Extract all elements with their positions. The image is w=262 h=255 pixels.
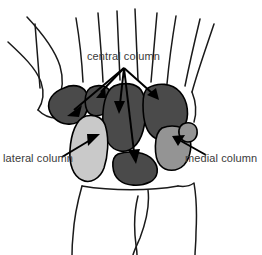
bone-capitate (103, 84, 146, 152)
thumb-metacarpal-line-2 (27, 17, 62, 100)
wrist-carpal-columns-diagram: central column lateral column medial col… (0, 0, 262, 255)
ulna-inner-line (135, 196, 138, 255)
hand-lateral-edge-line (192, 24, 214, 92)
metacarpal-5-line-a (167, 16, 176, 84)
metacarpal-2-line-b (76, 18, 83, 82)
metacarpal-4-line-a (135, 9, 138, 80)
ulnar-wrist-contour (192, 92, 196, 122)
ulna-outline (178, 183, 196, 255)
metacarpal-4-line-b (151, 13, 157, 82)
label-lateral-column: lateral column (3, 152, 73, 164)
label-medial-column: medial column (185, 152, 257, 164)
metacarpal-3-line-b (117, 11, 120, 80)
metacarpal-2-line-a (35, 24, 40, 88)
wrist-anatomy-svg: central column lateral column medial col… (0, 0, 262, 255)
metacarpal-5-line-b (185, 19, 200, 86)
metacarpal-3-line-a (98, 13, 103, 82)
label-central-column: central column (87, 50, 160, 62)
forearm-group (72, 183, 196, 255)
radius-outline (72, 186, 82, 255)
distal-radioulnar-joint-line (82, 186, 178, 190)
